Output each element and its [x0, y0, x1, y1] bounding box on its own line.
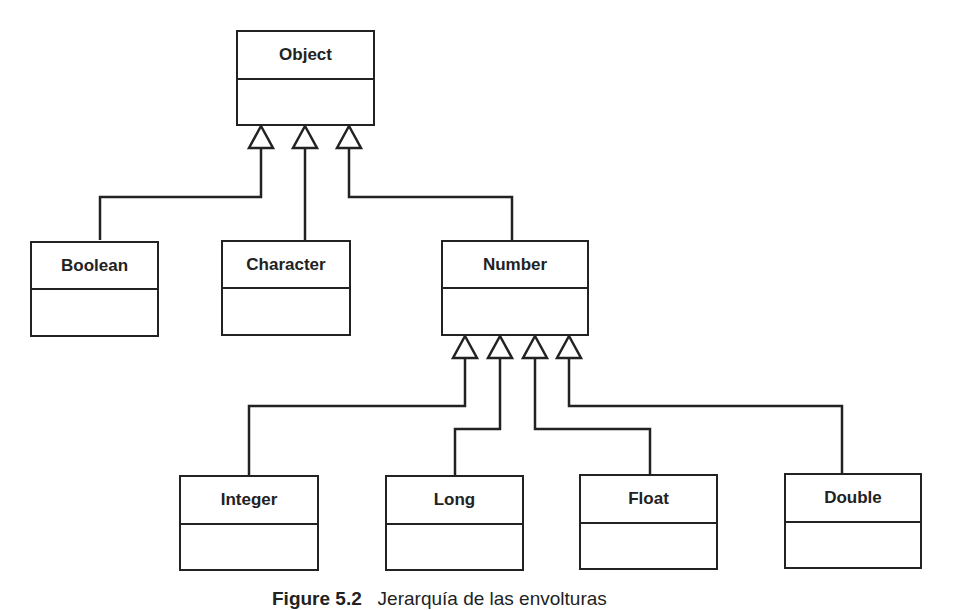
class-float: Float [579, 474, 718, 570]
figure-caption: Figure 5.2 Jerarquía de las envolturas [272, 588, 607, 610]
connector-long-number [455, 358, 500, 475]
class-name: Float [581, 476, 716, 524]
connector-boolean-object [100, 148, 261, 240]
generalization-arrow-icon [249, 126, 273, 148]
class-name: Object [238, 32, 373, 80]
class-boolean: Boolean [30, 241, 159, 337]
class-name: Character [223, 242, 349, 289]
class-name: Integer [181, 477, 317, 525]
generalization-arrow-icon [337, 126, 361, 148]
class-object: Object [236, 30, 375, 126]
class-name: Double [786, 475, 920, 523]
class-number: Number [441, 240, 589, 336]
class-character: Character [221, 240, 351, 336]
class-name: Number [443, 242, 587, 289]
connector-double-number [569, 358, 842, 475]
generalization-arrow-icon [557, 336, 581, 358]
connector-number-object [349, 148, 512, 240]
connector-integer-number [249, 358, 465, 475]
figure-label: Figure 5.2 [272, 588, 362, 609]
class-integer: Integer [179, 475, 319, 571]
figure-caption-text: Jerarquía de las envolturas [378, 588, 607, 609]
generalization-arrow-icon [293, 126, 317, 148]
generalization-arrow-icon [453, 336, 477, 358]
generalization-arrow-icon [523, 336, 547, 358]
class-name: Boolean [32, 243, 157, 290]
class-double: Double [784, 473, 922, 569]
connector-float-number [535, 358, 650, 475]
class-long: Long [385, 475, 524, 571]
class-name: Long [387, 477, 522, 525]
generalization-arrow-icon [488, 336, 512, 358]
